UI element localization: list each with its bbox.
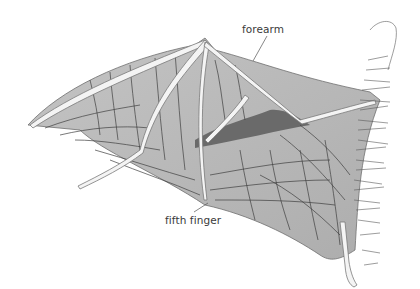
forearm-leader-line — [253, 36, 267, 61]
fifth-finger-label: fifth finger — [165, 214, 221, 226]
fifth-finger-leader-line — [194, 203, 208, 212]
bat-wing-diagram: forearm fifth finger — [0, 0, 420, 289]
forearm-label: forearm — [242, 23, 284, 35]
bat-wing-illustration — [0, 0, 420, 289]
